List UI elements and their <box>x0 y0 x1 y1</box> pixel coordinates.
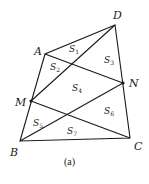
region-s7: S7 <box>67 126 77 137</box>
region-s3: S3 <box>104 55 114 66</box>
quadrilateral-diagram: D A M N B C S1 S2 S3 S4 S5 S6 S7 (a) <box>0 0 149 184</box>
point-n <box>121 81 124 84</box>
region-s1: S1 <box>69 44 79 55</box>
label-m: M <box>14 96 27 109</box>
label-a: A <box>33 45 42 58</box>
label-b: B <box>9 146 18 159</box>
label-c: C <box>134 140 143 153</box>
label-d: D <box>112 9 122 22</box>
region-s5: S5 <box>33 118 43 129</box>
figure-caption: (a) <box>64 156 75 168</box>
region-s2: S2 <box>50 62 60 73</box>
region-s6: S6 <box>104 106 114 117</box>
label-n: N <box>128 77 139 90</box>
region-s4: S4 <box>72 83 82 94</box>
point-m <box>29 99 32 102</box>
